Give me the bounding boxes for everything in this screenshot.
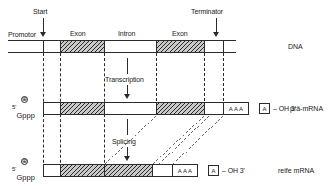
splice-line-tail-left: [158, 116, 209, 165]
mature-mrna-segment-exon-2: [104, 164, 152, 177]
mature-mrna-cap-charge-icon: ⊕: [21, 158, 28, 165]
mature-mrna-segment-3utr: [152, 164, 172, 177]
mature-mrna-cap: 5'Gppp: [12, 166, 35, 184]
mature-mrna-divider-3: [104, 164, 105, 177]
mature-mrna-tail-label: – OH 3': [222, 167, 245, 174]
splice-line-exon2-right: [152, 116, 204, 165]
mature-mrna-segment-exon-1: [60, 164, 104, 177]
diagram-canvas: Start Terminator Promotor Exon Intron Ex…: [0, 0, 336, 189]
mature-mrna-segment-5utr: [43, 164, 60, 177]
mature-mrna-cap-five: 5': [12, 166, 16, 172]
mature-mrna-divider-4: [152, 164, 153, 177]
mature-mrna-divider-2: [60, 164, 61, 177]
splice-connector-lines: [0, 0, 336, 189]
mature-mrna-cap-gppp: Gppp: [16, 173, 34, 182]
mature-mrna-polya-box: AAA: [172, 164, 198, 177]
mature-mrna-row-label: reife mRNA: [278, 167, 314, 174]
mature-mrna-divider-1: [43, 164, 44, 177]
mature-mrna-tail-a-box: A: [208, 165, 219, 176]
splice-line-tail-right: [172, 116, 223, 165]
splice-line-exon2-left: [104, 116, 156, 165]
